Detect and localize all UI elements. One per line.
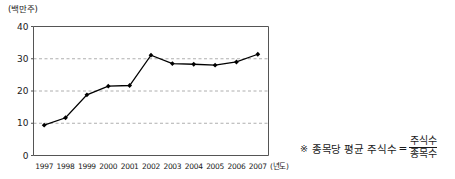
x-tick-label: 1999: [78, 162, 96, 171]
footnote-text: 종목당 평균 주식수: [312, 141, 397, 156]
y-tick-label: 0: [23, 151, 29, 161]
x-tick-label: 1997: [35, 162, 53, 171]
x-tick-label: 2005: [206, 162, 224, 171]
x-tick-labels-group: 1997199819992000200120022003200420052006…: [35, 162, 267, 171]
footnote-mark-icon: ※: [300, 143, 308, 154]
data-point-marker: [170, 61, 175, 66]
data-point-marker: [106, 84, 111, 89]
fraction-denominator: 종목수: [409, 148, 437, 160]
x-tick-label: 2000: [99, 162, 117, 171]
y-tick-label: 10: [17, 118, 29, 128]
data-point-marker: [234, 60, 239, 65]
data-point-marker: [255, 52, 260, 57]
y-tick-label: 20: [17, 86, 29, 96]
x-tick-label: 2002: [142, 162, 160, 171]
footnote-fraction: 주식수 종목수: [409, 136, 437, 160]
x-tick-label: 2007: [249, 162, 267, 171]
y-tick-labels-group: 010203040: [17, 22, 29, 161]
chart-figure: (백만주) 010203040 199719981999200020012002…: [0, 0, 455, 179]
fraction-numerator: 주식수: [409, 136, 437, 148]
data-series-line: [44, 54, 258, 125]
x-tick-label: 1998: [57, 162, 75, 171]
y-tick-label: 30: [17, 54, 29, 64]
y-tick-label: 40: [17, 22, 29, 32]
footnote-equals: =: [398, 142, 407, 154]
x-axis-unit-label: (년도): [270, 161, 289, 171]
data-point-marker: [213, 63, 218, 68]
x-tick-label: 2001: [121, 162, 139, 171]
footnote: ※ 종목당 평균 주식수 = 주식수 종목수: [300, 136, 437, 160]
x-tick-label: 2003: [163, 162, 181, 171]
data-point-marker: [191, 62, 196, 67]
x-tick-label: 2004: [185, 162, 203, 171]
x-tick-label: 2006: [228, 162, 246, 171]
